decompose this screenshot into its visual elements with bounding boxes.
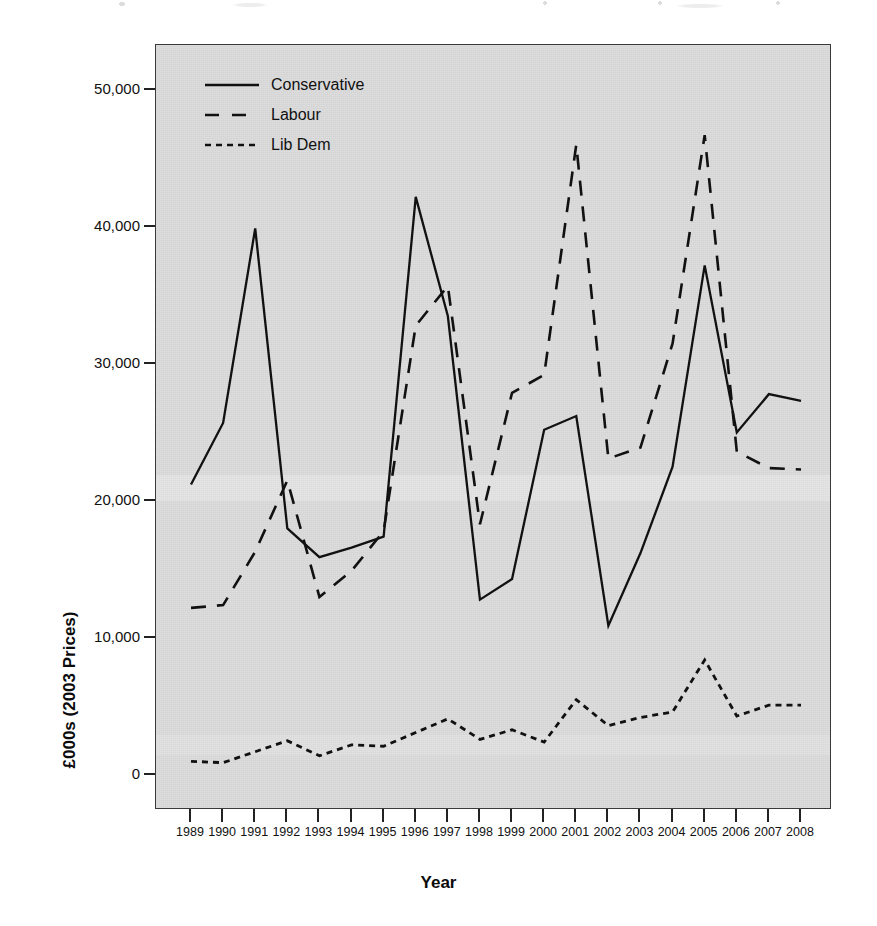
y-tick-label: 10,000 <box>45 628 140 645</box>
x-tick-label: 1999 <box>494 825 528 839</box>
x-tick-mark <box>446 809 448 822</box>
x-tick-mark <box>253 809 255 822</box>
legend: Conservative Labour Lib Dem <box>204 70 364 160</box>
x-tick-label: 1994 <box>334 825 368 839</box>
x-tick-mark <box>542 809 544 822</box>
x-tick-mark <box>574 809 576 822</box>
x-tick-mark <box>189 809 191 822</box>
x-tick-label: 1990 <box>205 825 239 839</box>
x-tick-mark <box>317 809 319 822</box>
x-tick-label: 2003 <box>622 825 656 839</box>
legend-item-labour: Labour <box>204 100 364 130</box>
y-tick-mark <box>144 636 155 638</box>
x-tick-label: 2001 <box>558 825 592 839</box>
scan-artifact-top <box>0 0 877 14</box>
x-tick-label: 2005 <box>687 825 721 839</box>
x-tick-label: 2000 <box>526 825 560 839</box>
x-tick-mark <box>510 809 512 822</box>
y-tick-mark <box>144 499 155 501</box>
x-tick-label: 1991 <box>237 825 271 839</box>
x-tick-label: 1993 <box>301 825 335 839</box>
series-line-lib-dem <box>191 660 801 763</box>
x-tick-mark <box>285 809 287 822</box>
y-axis-title: £000s (2003 Prices) <box>60 540 80 840</box>
x-tick-label: 2006 <box>719 825 753 839</box>
legend-key-dotted-icon <box>204 138 260 152</box>
x-tick-mark <box>671 809 673 822</box>
legend-key-dashed-icon <box>204 108 260 122</box>
y-tick-label: 20,000 <box>45 491 140 508</box>
x-tick-mark <box>703 809 705 822</box>
legend-item-conservative: Conservative <box>204 70 364 100</box>
legend-label-conservative: Conservative <box>271 76 364 94</box>
y-tick-label: 30,000 <box>45 354 140 371</box>
x-tick-mark <box>638 809 640 822</box>
y-tick-label: 0 <box>45 765 140 782</box>
x-tick-label: 1989 <box>173 825 207 839</box>
legend-item-libdem: Lib Dem <box>204 130 364 160</box>
figure: £000s (2003 Prices) 010,00020,00030,0004… <box>0 0 877 926</box>
y-axis-title-wrap: £000s (2003 Prices) <box>38 300 68 480</box>
x-tick-mark <box>478 809 480 822</box>
legend-key-solid-icon <box>204 78 260 92</box>
x-tick-label: 2002 <box>590 825 624 839</box>
y-tick-mark <box>144 225 155 227</box>
x-tick-mark <box>799 809 801 822</box>
series-line-labour <box>191 135 801 608</box>
y-tick-label: 50,000 <box>45 80 140 97</box>
x-tick-mark <box>382 809 384 822</box>
x-tick-label: 1992 <box>269 825 303 839</box>
x-tick-label: 2004 <box>655 825 689 839</box>
x-tick-label: 2007 <box>751 825 785 839</box>
legend-label-labour: Labour <box>271 106 321 124</box>
legend-label-libdem: Lib Dem <box>271 136 331 154</box>
x-tick-label: 1998 <box>462 825 496 839</box>
x-tick-label: 1996 <box>398 825 432 839</box>
x-tick-mark <box>606 809 608 822</box>
x-tick-label: 1997 <box>430 825 464 839</box>
x-tick-mark <box>221 809 223 822</box>
y-tick-mark <box>144 88 155 90</box>
x-tick-label: 2008 <box>783 825 817 839</box>
y-tick-mark <box>144 362 155 364</box>
y-tick-mark <box>144 773 155 775</box>
x-tick-mark <box>414 809 416 822</box>
x-axis-title: Year <box>0 873 877 893</box>
x-tick-label: 1995 <box>366 825 400 839</box>
y-tick-label: 40,000 <box>45 217 140 234</box>
x-tick-mark <box>735 809 737 822</box>
x-tick-mark <box>767 809 769 822</box>
series-line-conservative <box>191 197 801 626</box>
x-tick-mark <box>350 809 352 822</box>
